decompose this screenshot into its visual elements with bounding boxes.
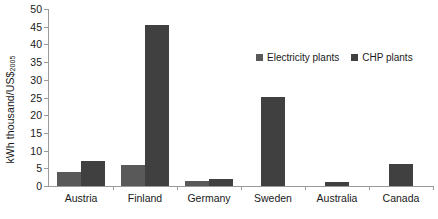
legend-entry: Electricity plants (256, 52, 339, 63)
bar-group (305, 9, 369, 186)
y-axis-tick-label: 25 (30, 92, 42, 104)
bar-group (177, 9, 241, 186)
plot-area (49, 9, 433, 186)
bar-group (241, 9, 305, 186)
bar-group (113, 9, 177, 186)
y-axis-tick-label: 15 (30, 127, 42, 139)
x-axis-separator (369, 186, 370, 190)
y-axis-tick-labels: 50454035302520151050 (22, 9, 42, 187)
bar-group (49, 9, 113, 186)
y-axis-tick-label: 10 (30, 145, 42, 157)
legend-entry: CHP plants (351, 52, 412, 63)
x-axis-tick-label: Australia (305, 192, 369, 204)
x-axis-tick-label: Sweden (241, 192, 305, 204)
x-axis-separator (305, 186, 306, 190)
bar (261, 97, 285, 186)
legend-swatch-icon (351, 54, 358, 61)
bar (81, 161, 105, 186)
x-axis-separator (177, 186, 178, 190)
x-axis-tick-label: Austria (49, 192, 113, 204)
bar (325, 182, 349, 186)
x-axis-tick-label: Germany (177, 192, 241, 204)
y-axis-title: kWh thousand/US$2005 (0, 0, 20, 219)
bar (185, 181, 209, 186)
y-axis-tick-label: 45 (30, 21, 42, 33)
y-axis-title-text: kWh thousand/US$ (4, 71, 16, 163)
x-axis-tick-labels: AustriaFinlandGermanySwedenAustraliaCana… (49, 192, 433, 212)
x-axis-separator (433, 186, 434, 190)
legend-label: Electricity plants (267, 52, 339, 63)
y-axis-tick-label: 35 (30, 56, 42, 68)
bar (121, 165, 145, 186)
y-axis-tick-label: 40 (30, 38, 42, 50)
bar (209, 179, 233, 186)
x-axis-separator (113, 186, 114, 190)
y-axis-tick-label: 20 (30, 109, 42, 121)
x-axis-separator (241, 186, 242, 190)
bar (145, 25, 169, 186)
x-axis-tick-label: Finland (113, 192, 177, 204)
y-axis-tick-label: 30 (30, 74, 42, 86)
bar (389, 164, 413, 186)
bar-chart: kWh thousand/US$2005 5045403530252015105… (0, 0, 438, 219)
legend-label: CHP plants (362, 52, 412, 63)
bar-group (369, 9, 433, 186)
y-axis-tick-label: 5 (36, 162, 42, 174)
x-axis-tick-label: Canada (369, 192, 433, 204)
bar (57, 172, 81, 186)
y-axis-tick-label: 50 (30, 3, 42, 15)
legend-swatch-icon (256, 54, 263, 61)
y-axis-title-subscript: 2005 (9, 55, 16, 71)
chart-legend: Electricity plantsCHP plants (256, 52, 413, 63)
y-axis-tick-label: 0 (36, 180, 42, 192)
